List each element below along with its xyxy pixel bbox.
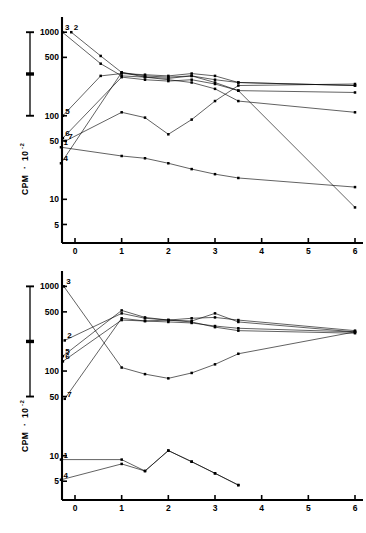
- series-marker-4: [60, 479, 63, 482]
- series-line-1: [61, 147, 355, 187]
- x-axis-tick-label: 5: [306, 503, 311, 513]
- series-marker-7: [167, 133, 170, 136]
- y-axis-tick-label: 5: [54, 476, 59, 486]
- series-marker-3: [120, 366, 123, 369]
- series-line-2: [71, 32, 355, 85]
- x-axis-tick-label: 4: [259, 503, 264, 513]
- series-marker-3: [63, 285, 66, 288]
- series-marker-6: [354, 91, 357, 94]
- series-marker-5: [99, 75, 102, 78]
- series-marker-7: [167, 319, 170, 322]
- series-marker-7: [354, 83, 357, 86]
- y-axis-title-separator: ·: [20, 166, 30, 169]
- series-marker-5: [190, 72, 193, 75]
- x-axis-tick-label: 2: [166, 503, 171, 513]
- series-marker-5: [237, 81, 240, 84]
- series-marker-7: [144, 320, 147, 323]
- x-axis-tick-label: 0: [73, 503, 78, 513]
- series-marker-1: [237, 177, 240, 180]
- series-marker-1: [354, 186, 357, 189]
- series-label-1: 1: [64, 451, 69, 460]
- series-marker-6: [144, 78, 147, 81]
- series-marker-7: [190, 317, 193, 320]
- chart-svg-top: 1000500100501050123456CPM·10-21234567: [0, 0, 366, 260]
- y-axis-title-separator: ·: [20, 423, 30, 426]
- y-axis-tick-label: 100: [45, 111, 59, 121]
- y-axis-title-main: CPM: [20, 175, 30, 195]
- series-marker-4: [144, 76, 147, 79]
- series-marker-2: [237, 329, 240, 332]
- series-marker-4: [214, 88, 217, 91]
- series-marker-6: [167, 80, 170, 83]
- series-marker-7: [214, 316, 217, 319]
- y-axis-tick-label: 50: [50, 136, 60, 146]
- series-marker-4: [214, 472, 217, 475]
- series-marker-7: [120, 111, 123, 114]
- series-marker-3: [190, 372, 193, 375]
- series-marker-7: [63, 398, 65, 401]
- y-axis-tick-label: 500: [45, 307, 59, 317]
- series-label-4: 4: [64, 471, 69, 480]
- series-label-3: 3: [65, 23, 70, 32]
- series-marker-5: [62, 355, 64, 358]
- series-marker-4: [120, 463, 123, 466]
- series-marker-4: [167, 449, 170, 452]
- series-marker-2: [70, 31, 73, 34]
- series-marker-2: [63, 339, 65, 342]
- series-marker-3: [99, 62, 102, 65]
- series-marker-3: [354, 206, 357, 209]
- series-line-4: [61, 72, 355, 163]
- y-axis-tick-label: 500: [45, 52, 59, 62]
- x-axis-tick-label: 2: [166, 246, 171, 256]
- series-marker-7: [144, 116, 147, 119]
- series-marker-4: [237, 484, 240, 487]
- series-line-4: [61, 451, 238, 486]
- series-marker-1: [167, 162, 170, 165]
- chart-panel-top: 1000500100501050123456CPM·10-21234567: [0, 0, 366, 260]
- series-marker-4: [190, 460, 193, 463]
- series-marker-1: [60, 146, 63, 149]
- series-marker-6: [62, 137, 64, 140]
- series-marker-3: [214, 363, 217, 366]
- series-marker-4: [237, 100, 240, 103]
- series-marker-3: [61, 31, 64, 34]
- y-axis-title-base: 10: [20, 151, 30, 161]
- x-axis-tick-label: 3: [213, 246, 218, 256]
- series-marker-6: [190, 78, 193, 81]
- figure-root: 1000500100501050123456CPM·10-21234567 10…: [0, 0, 366, 533]
- series-marker-5: [214, 75, 217, 78]
- x-axis-tick-label: 6: [353, 246, 358, 256]
- chart-panel-bottom: 1000500100501050123456CPM·10-21234567: [0, 268, 366, 528]
- series-marker-5: [62, 115, 64, 118]
- series-marker-2: [214, 78, 217, 81]
- y-axis-title-exponent: -2: [19, 400, 25, 406]
- series-marker-6: [190, 322, 193, 325]
- series-label-4: 4: [64, 154, 69, 163]
- y-axis-title-main: CPM: [20, 432, 30, 452]
- series-marker-7: [190, 118, 193, 121]
- series-marker-5: [167, 75, 170, 78]
- series-marker-5: [144, 73, 147, 76]
- x-axis-tick-label: 1: [119, 503, 124, 513]
- series-label-2: 2: [74, 23, 79, 32]
- x-axis-tick-label: 0: [73, 246, 78, 256]
- y-axis-title-base: 10: [20, 408, 30, 418]
- y-axis-tick-label: 10: [50, 194, 60, 204]
- series-marker-7: [64, 140, 67, 143]
- series-marker-5: [120, 309, 123, 312]
- series-label-3: 3: [66, 277, 71, 286]
- series-marker-1: [120, 155, 123, 158]
- series-line-1: [61, 451, 238, 486]
- y-axis-tick-label: 1000: [40, 27, 59, 37]
- series-marker-4: [60, 162, 63, 165]
- series-marker-6: [62, 360, 64, 363]
- x-axis-tick-label: 6: [353, 503, 358, 513]
- series-marker-6: [120, 76, 123, 79]
- series-marker-7: [214, 100, 217, 103]
- series-marker-5: [214, 312, 217, 315]
- y-axis-tick-label: 5: [54, 220, 59, 230]
- series-label-2: 2: [67, 331, 72, 340]
- series-marker-4: [190, 81, 193, 84]
- y-axis-tick-label: 10: [50, 451, 60, 461]
- series-line-5: [63, 310, 355, 356]
